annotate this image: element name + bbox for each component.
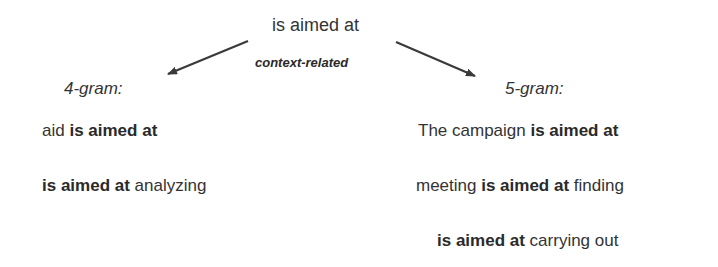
item-key-phrase: is aimed at (42, 176, 130, 195)
root-phrase: is aimed at (272, 15, 359, 35)
item-context: analyzing (130, 176, 207, 195)
item-key-phrase: is aimed at (69, 121, 157, 140)
ngram-5-item-2: meeting is aimed at finding (416, 176, 624, 196)
header-5gram: 5-gram: (505, 79, 564, 99)
ngram-5-item-1: The campaign is aimed at (418, 121, 618, 141)
relation-label: context-related (255, 53, 348, 73)
item-context: meeting (416, 176, 481, 195)
ngram-4-item-1: aid is aimed at (42, 121, 157, 141)
item-key-phrase: is aimed at (437, 231, 525, 250)
item-context: carrying out (525, 231, 619, 250)
ngram-5-item-3: is aimed at carrying out (437, 231, 618, 251)
arrow-to-4gram (168, 41, 248, 74)
ngram-4-item-2: is aimed at analyzing (42, 176, 206, 196)
header-4gram: 4-gram: (64, 79, 123, 99)
item-context: The campaign (418, 121, 530, 140)
item-context: finding (569, 176, 624, 195)
item-key-phrase: is aimed at (530, 121, 618, 140)
item-context: aid (42, 121, 69, 140)
item-key-phrase: is aimed at (481, 176, 569, 195)
arrow-to-5gram (396, 42, 475, 76)
